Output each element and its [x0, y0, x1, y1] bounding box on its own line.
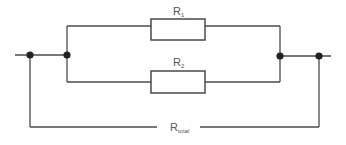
- resistor-r2-label: R2: [173, 56, 185, 69]
- resistor-r1: [151, 19, 205, 40]
- total-resistance-label: Rtotal: [170, 121, 189, 134]
- resistor-r2: [151, 71, 205, 93]
- output-terminal-node: [315, 52, 322, 59]
- right-junction-node: [276, 52, 283, 59]
- total-resistance-subscript: total: [178, 128, 189, 134]
- circuit-diagram: R1 R2 Rtotal: [0, 0, 346, 145]
- resistor-r1-subscript: 1: [181, 12, 185, 18]
- resistor-r1-label: R1: [173, 5, 185, 18]
- resistor-r2-subscript: 2: [181, 63, 185, 69]
- input-terminal-node: [26, 51, 33, 58]
- left-junction-node: [63, 51, 70, 58]
